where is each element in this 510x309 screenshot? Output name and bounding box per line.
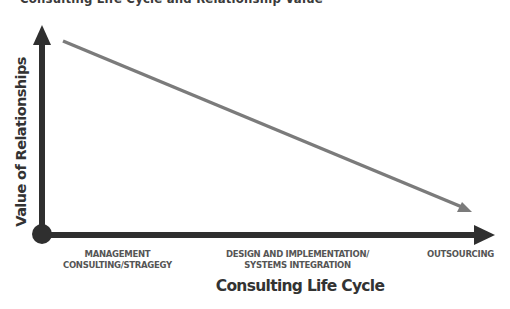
x-axis [42,225,495,245]
x-tick-line: CONSULTING/STRAGEGY [63,260,172,271]
y-axis [33,25,51,234]
trend-line [63,41,472,212]
y-axis-label: Value of Relationships [13,57,29,226]
x-tick-design: DESIGN AND IMPLEMENTATION/ SYSTEMS INTEG… [226,249,369,271]
origin-dot-icon [32,224,52,244]
x-axis-label: Consulting Life Cycle [216,277,385,295]
x-axis-arrowhead-icon [474,225,495,245]
y-axis-arrowhead-icon [33,25,51,45]
x-tick-line: OUTSOURCING [427,249,494,260]
x-tick-line: MANAGEMENT [63,249,172,260]
x-tick-line: DESIGN AND IMPLEMENTATION/ [226,249,369,260]
x-tick-line: SYSTEMS INTEGRATION [226,260,369,271]
x-tick-management: MANAGEMENT CONSULTING/STRAGEGY [63,249,172,271]
x-tick-outsourcing: OUTSOURCING [427,249,494,260]
